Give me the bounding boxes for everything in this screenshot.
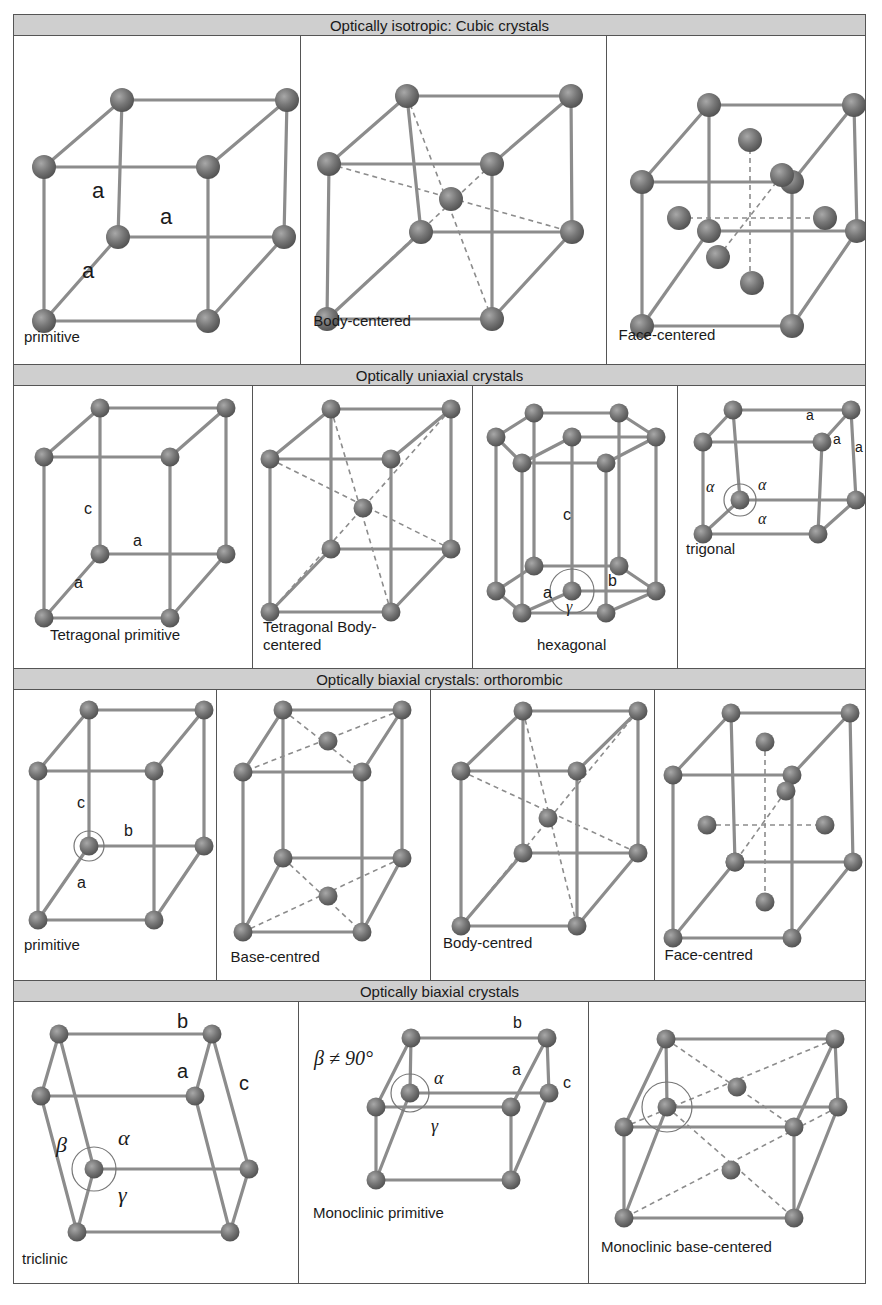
axis-label: b bbox=[513, 1014, 522, 1031]
lattice-cell: cabγhexagonal bbox=[473, 386, 678, 668]
angle-label: β bbox=[55, 1132, 67, 1157]
lattice-cell: bacβ ≠ 90°αγMonoclinic primitive bbox=[299, 1002, 589, 1284]
lattice-caption: triclinic bbox=[22, 1250, 68, 1268]
angle-label: γ bbox=[118, 1182, 128, 1207]
axis-label: a bbox=[512, 1061, 521, 1078]
axis-label: a bbox=[92, 178, 105, 203]
lattice-diagram-icon: cabγ bbox=[473, 386, 678, 668]
lattice-cell: Face-centred bbox=[655, 690, 866, 980]
axis-label: a bbox=[77, 874, 86, 891]
angle-label: γ bbox=[431, 1116, 439, 1136]
lattice-cell: bacβαγtriclinic bbox=[14, 1002, 299, 1284]
axis-label: c bbox=[77, 794, 85, 811]
section-header: Optically biaxial crystals: orthorombic bbox=[13, 668, 866, 690]
lattice-caption: primitive bbox=[24, 936, 80, 954]
lattice-cell: aaaαααtrigonal bbox=[678, 386, 865, 668]
angle-label: α bbox=[706, 478, 715, 495]
lattice-diagram-icon: aaaααα bbox=[678, 386, 865, 668]
lattice-cell: Body-centred bbox=[431, 690, 654, 980]
lattice-caption: hexagonal bbox=[537, 636, 606, 654]
axis-label: a bbox=[806, 407, 814, 423]
axis-label: a bbox=[177, 1060, 189, 1082]
section-header: Optically biaxial crystals bbox=[13, 980, 866, 1002]
axis-label: a bbox=[74, 574, 83, 591]
axis-label: c bbox=[84, 500, 92, 517]
lattice-diagram-icon bbox=[607, 36, 865, 364]
lattice-caption: primitive bbox=[24, 328, 80, 346]
lattice-caption: Monoclinic primitive bbox=[313, 1204, 444, 1222]
axis-label: a bbox=[160, 204, 173, 229]
lattice-caption: Tetragonal Body- centered bbox=[263, 618, 376, 654]
lattice-cell: Tetragonal Body- centered bbox=[253, 386, 473, 668]
section-row: caaTetragonal primitiveTetragonal Body- … bbox=[13, 386, 866, 668]
lattice-cell: aaaprimitive bbox=[14, 36, 301, 364]
lattice-diagram-icon: bacβαγ bbox=[14, 1002, 299, 1284]
crystal-systems-table: Optically isotropic: Cubic crystalsaaapr… bbox=[13, 14, 866, 1284]
angle-label: α bbox=[118, 1125, 130, 1150]
lattice-cell: Monoclinic base-centered bbox=[589, 1002, 865, 1284]
axis-label: c bbox=[563, 1074, 571, 1091]
angle-label: α bbox=[434, 1068, 444, 1088]
angle-label: β ≠ 90° bbox=[313, 1047, 373, 1070]
axis-label: a bbox=[543, 584, 552, 601]
lattice-caption: Body-centered bbox=[313, 312, 411, 330]
axis-label: a bbox=[855, 439, 863, 455]
lattice-diagram-icon: aaa bbox=[14, 36, 301, 364]
lattice-caption: Tetragonal primitive bbox=[50, 626, 180, 644]
angle-label: α bbox=[758, 510, 767, 527]
axis-label: a bbox=[133, 532, 142, 549]
angle-label: α bbox=[758, 476, 767, 493]
section-row: bacβαγtriclinicbacβ ≠ 90°αγMonoclinic pr… bbox=[13, 1002, 866, 1284]
lattice-cell: cbaprimitive bbox=[14, 690, 217, 980]
axis-label: a bbox=[833, 431, 841, 447]
section-header: Optically uniaxial crystals bbox=[13, 364, 866, 386]
axis-label: b bbox=[608, 572, 617, 589]
axis-label: a bbox=[82, 258, 95, 283]
lattice-caption: Monoclinic base-centered bbox=[601, 1238, 772, 1256]
axis-label: c bbox=[563, 506, 571, 523]
lattice-cell: Body-centered bbox=[301, 36, 606, 364]
axis-label: b bbox=[124, 822, 133, 839]
axis-label: b bbox=[177, 1010, 188, 1032]
lattice-cell: caaTetragonal primitive bbox=[14, 386, 253, 668]
lattice-caption: trigonal bbox=[686, 540, 735, 558]
lattice-cell: Face-centered bbox=[607, 36, 865, 364]
lattice-cell: Base-centred bbox=[217, 690, 432, 980]
lattice-caption: Face-centered bbox=[619, 326, 716, 344]
section-row: cbaprimitiveBase-centredBody-centredFace… bbox=[13, 690, 866, 980]
section-header: Optically isotropic: Cubic crystals bbox=[13, 14, 866, 36]
lattice-caption: Base-centred bbox=[231, 948, 320, 966]
angle-label: γ bbox=[566, 598, 573, 616]
lattice-caption: Face-centred bbox=[665, 946, 753, 964]
lattice-caption: Body-centred bbox=[443, 934, 532, 952]
lattice-diagram-icon bbox=[655, 690, 866, 980]
lattice-diagram-icon: bacβ ≠ 90°αγ bbox=[299, 1002, 589, 1284]
axis-label: c bbox=[239, 1072, 249, 1094]
section-row: aaaprimitiveBody-centeredFace-centered bbox=[13, 36, 866, 364]
lattice-diagram-icon bbox=[217, 690, 432, 980]
